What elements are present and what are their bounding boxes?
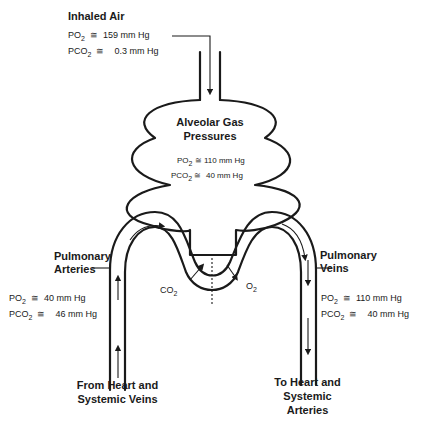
alveolar-po2: PO2 ≅ 110 mm Hg [177, 157, 245, 165]
veins-title-1: Pulmonary [320, 250, 377, 261]
arteries-title-2: Arteries [54, 264, 96, 275]
to-heart-line-1: To Heart and [250, 377, 365, 388]
to-heart-line-2: Systemic [250, 391, 365, 402]
from-heart-line-1: From Heart and [60, 380, 175, 391]
veins-pco2: PCO2 ≅ 40 mm Hg [321, 310, 409, 319]
capillary-outer-wall [110, 212, 316, 390]
co2-label: CO2 [160, 286, 177, 295]
alveolar-title-2: Pressures [160, 131, 260, 142]
inhaled-po2: PO2 ≅ 159 mm Hg [68, 31, 149, 40]
inhaled-air-arrow [172, 36, 210, 92]
inhaled-pco2: PCO2 ≅ 0.3 mm Hg [68, 47, 158, 56]
veins-po2: PO2 ≅ 110 mm Hg [321, 294, 402, 303]
arteries-title-1: Pulmonary [54, 251, 111, 262]
arteries-po2: PO2 ≅ 40 mm Hg [9, 294, 85, 303]
alveolar-pco2: PCO2 ≅ 40 mm Hg [171, 172, 243, 180]
o2-diffusion-arrow [227, 265, 236, 278]
alveolar-title-1: Alveolar Gas [160, 117, 260, 128]
o2-label: O2 [246, 282, 257, 291]
co2-diffusion-arrow [190, 266, 202, 280]
veins-title-2: Veins [320, 263, 349, 274]
arteries-pco2: PCO2 ≅ 46 mm Hg [9, 310, 97, 319]
from-heart-line-2: Systemic Veins [60, 394, 175, 405]
capillary-inner-wall [125, 227, 301, 390]
gas-exchange-diagram [0, 0, 423, 423]
inhaled-air-title: Inhaled Air [68, 11, 124, 22]
to-heart-line-3: Arteries [250, 405, 365, 416]
